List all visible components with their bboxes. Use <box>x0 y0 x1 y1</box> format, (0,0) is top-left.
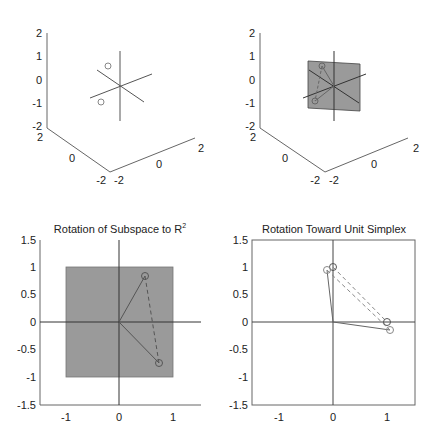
x-tick: 0 <box>330 411 336 423</box>
x-tick: -1 <box>61 411 71 423</box>
y-tick: -1 <box>238 371 248 383</box>
subplot-bottom-right: Rotation Toward Unit Simplex 1.5 1 0.5 0… <box>229 223 415 423</box>
plot-title: Rotation of Subspace to R2 <box>54 222 186 235</box>
x-tick-2: 2 <box>198 142 204 154</box>
z-tick-neg1: -1 <box>32 97 42 109</box>
y-tick: 1.5 <box>21 234 36 246</box>
z-tick-2: 2 <box>249 27 255 39</box>
y-tick-neg2: -2 <box>310 174 320 186</box>
y-axis <box>47 128 110 172</box>
x-tick: 0 <box>116 411 122 423</box>
data-point <box>98 99 104 105</box>
origin-axis-diag-2 <box>90 74 152 98</box>
x-tick-neg2: -2 <box>114 174 124 186</box>
y-tick: 0 <box>242 316 248 328</box>
x-axis <box>325 138 408 172</box>
subplot-bottom-left: Rotation of Subspace to R2 1.5 1 0.5 0 -… <box>17 222 201 423</box>
y-tick: -1.5 <box>229 399 248 411</box>
y-tick: 0.5 <box>233 288 248 300</box>
y-tick: 1 <box>30 261 36 273</box>
y-tick: -0.5 <box>17 343 36 355</box>
x-tick: 1 <box>170 411 176 423</box>
y-tick: -1.5 <box>17 399 36 411</box>
y-axis <box>260 128 325 172</box>
plot-title: Rotation Toward Unit Simplex <box>262 223 407 235</box>
x-tick-neg2: -2 <box>329 174 339 186</box>
z-tick-0: 0 <box>249 74 255 86</box>
z-tick-2: 2 <box>36 27 42 39</box>
y-tick-neg2: -2 <box>96 174 106 186</box>
x-axis <box>110 138 195 172</box>
x-tick-0: 0 <box>371 158 377 170</box>
z-tick-1: 1 <box>36 50 42 62</box>
x-tick-2: 2 <box>413 142 419 154</box>
y-tick-2: 2 <box>37 131 43 143</box>
subplot-top-right-3d: 2 1 0 -1 -2 2 0 -2 -2 0 2 <box>245 27 419 186</box>
y-tick: 1.5 <box>233 234 248 246</box>
y-tick: 0 <box>30 316 36 328</box>
z-tick-0: 0 <box>36 74 42 86</box>
x-tick: 1 <box>384 411 390 423</box>
y-tick: -1 <box>26 371 36 383</box>
data-point <box>105 63 111 69</box>
figure: 2 1 0 -1 -2 2 0 -2 -2 0 2 2 1 0 -1 -2 2 … <box>0 0 440 437</box>
y-tick: 0.5 <box>21 288 36 300</box>
x-tick: -1 <box>274 411 284 423</box>
z-tick-neg1: -1 <box>245 97 255 109</box>
y-tick-2: 2 <box>250 131 256 143</box>
z-tick-1: 1 <box>249 50 255 62</box>
subplot-top-left-3d: 2 1 0 -1 -2 2 0 -2 -2 0 2 <box>32 27 204 186</box>
y-tick: 1 <box>242 261 248 273</box>
y-tick-0: 0 <box>282 152 288 164</box>
x-tick-0: 0 <box>156 158 162 170</box>
y-tick: -0.5 <box>229 343 248 355</box>
y-tick-0: 0 <box>69 152 75 164</box>
